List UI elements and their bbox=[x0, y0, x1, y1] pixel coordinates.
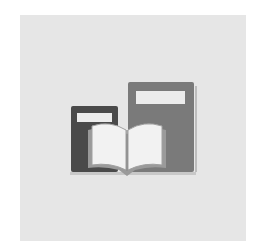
open-book-icon bbox=[0, 0, 260, 251]
